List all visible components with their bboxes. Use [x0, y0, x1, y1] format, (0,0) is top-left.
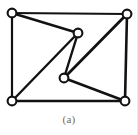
figure-caption: (a): [0, 112, 138, 126]
edge-lm-br: [64, 78, 125, 101]
graph-node-lower-middle: [60, 74, 69, 83]
graph-node-bottom-right: [121, 97, 130, 106]
edge-tl-tr: [12, 13, 127, 14]
graph-node-bottom-left: [8, 97, 17, 106]
graph-edge-layer: [12, 13, 127, 101]
graph-node-upper-middle: [74, 29, 83, 38]
graph-node-top-right: [123, 10, 132, 19]
figure-panel: (a): [0, 0, 138, 135]
graph-node-top-left: [8, 9, 17, 18]
edge-tl-um: [12, 13, 78, 33]
edge-tr-br: [125, 14, 127, 101]
graph-canvas: [0, 0, 138, 112]
